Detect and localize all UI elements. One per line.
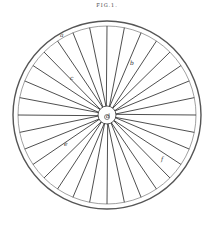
spoke [115, 114, 196, 115]
spoke [109, 28, 124, 108]
spoke [115, 117, 195, 132]
spoke [33, 66, 101, 110]
spoke [113, 120, 181, 164]
spoke [90, 123, 105, 203]
spoke [58, 121, 102, 189]
spoke [106, 26, 107, 107]
spoke [112, 41, 156, 109]
reference-label: f [160, 155, 165, 163]
spoke [107, 123, 108, 204]
reference-label: a [60, 31, 64, 38]
reference-label: d [106, 112, 110, 119]
reference-label: c [70, 74, 74, 81]
wheel-drawing: abcdef [0, 0, 214, 231]
reference-label: e [64, 140, 68, 147]
reference-label: b [130, 59, 134, 66]
spoke [18, 115, 99, 116]
spoke [20, 98, 100, 113]
